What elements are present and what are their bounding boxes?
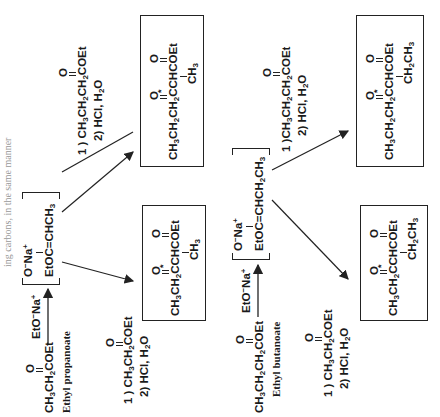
- bracket-left: [22, 278, 60, 285]
- formula: CH3CH2COEt: [43, 342, 56, 413]
- reaction-scheme: ing carbons, in the same manner O CH3CH2…: [0, 0, 440, 417]
- carbonyl-o: O: [25, 364, 36, 373]
- o-minus-na: O−Na+: [22, 244, 35, 277]
- branch-arrow-2b: [272, 200, 348, 279]
- product-box-1a: O * O CH3CH2CCHCOEt CH3: [142, 205, 206, 321]
- base-reagent-1: EtO−Na+: [30, 295, 43, 340]
- double-bond: [36, 368, 43, 372]
- enolate-formula: EtOC=CHCH3: [43, 204, 56, 277]
- reagent-step2: 2) HCl, H2O: [92, 80, 105, 141]
- single-bond: [36, 252, 43, 253]
- label-ethyl-propanoate: Ethyl propanoate: [60, 331, 73, 413]
- product-box-1b: O * O CH3CH2CH2CCHCOEt CH3: [140, 15, 204, 167]
- reagent-step2: 2) HCl, H2O: [138, 336, 151, 397]
- label-ethyl-butanoate: Ethyl butanoate: [270, 322, 283, 398]
- branch-arrow-1a: [62, 152, 133, 212]
- product-box-2b: O * O CH3CH2CH2CCHCOEt CH2CH3: [356, 15, 424, 167]
- reagent-step1: 1 ) CH3CH2COEt: [122, 316, 135, 404]
- reagent-step1: 1 ) CH3CH2CH2COEt: [76, 46, 89, 155]
- product-box-2a: O * O CH3CH2CCHCOEt CH2CH3: [360, 205, 428, 321]
- bracket-right: [22, 192, 60, 199]
- branch-arrow-1c: [62, 262, 133, 281]
- base-reagent-2: EtO−Na+: [240, 269, 253, 314]
